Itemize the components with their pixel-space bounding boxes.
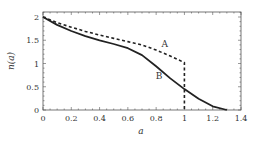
x-tick-label: 0.2 [65,114,78,123]
x-axis-label: a [138,126,143,136]
curves [43,17,227,110]
y-tick-label: 0 [34,106,39,115]
curve-label-A: A [160,39,168,49]
plot-frame [43,12,241,110]
y-axis-label: n(a) [6,51,16,70]
curve-B [43,17,227,110]
y-tick-label: 2 [34,13,39,22]
x-tick-label: 0.4 [93,114,106,123]
x-tick-label: 0.6 [121,114,134,123]
curve-A [43,17,184,110]
x-tick-label: 0 [40,114,45,123]
x-tick-label: 1.4 [235,114,248,123]
x-tick-label: 1 [182,114,187,123]
y-tick-label: 0.5 [26,83,39,92]
x-tick-label: 0.8 [150,114,163,123]
y-tick-label: 1.5 [26,36,39,45]
x-tick-label: 1.2 [206,114,219,123]
line-chart: 00.20.40.60.811.21.400.511.52 AB a n(a) [0,0,258,142]
curve-label-B: B [156,71,163,81]
y-tick-label: 1 [34,60,39,69]
axis-ticks [43,12,241,110]
